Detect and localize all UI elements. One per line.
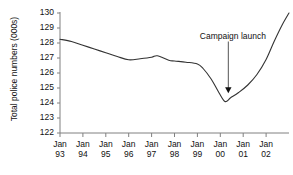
series-line <box>60 13 289 102</box>
plot-area <box>0 0 293 175</box>
annotation-label: Campaign launch <box>86 31 293 41</box>
data-series <box>60 13 289 102</box>
annotation-arrow <box>225 42 231 94</box>
annotation-arrow-head <box>225 87 231 93</box>
line-chart: Total police numbers (000s) 130129128127… <box>0 0 293 175</box>
